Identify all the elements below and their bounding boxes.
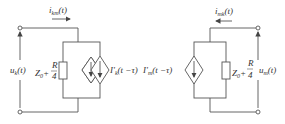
left-circuit: [18, 19, 100, 114]
terminal-bottom-right: [256, 110, 260, 114]
source-label-left: I'k(t −τ): [109, 65, 138, 76]
circuit-diagram: ikm(t) uk(t) Z0+ R 4 I'k(t −τ) imk(t) um…: [0, 0, 285, 124]
terminal-bottom-left: [18, 110, 22, 114]
voltage-label-right: um(t): [259, 65, 276, 76]
impedance-denominator-left: 4: [52, 71, 57, 81]
terminal-top-left: [18, 26, 22, 30]
resistor-left: [59, 62, 67, 79]
voltage-label-left: uk(t): [10, 65, 26, 76]
impedance-numerator-left: R: [51, 60, 58, 70]
impedance-label-left: Z0+: [35, 68, 49, 79]
source-label-right: I'm(t −τ): [142, 65, 172, 76]
current-label-right: imk(t): [215, 6, 233, 17]
impedance-denominator-right: 4: [248, 70, 253, 80]
terminal-top-right: [256, 26, 260, 30]
current-label-left: ikm(t): [49, 5, 67, 16]
impedance-numerator-right: R: [247, 58, 254, 68]
impedance-label-right: Z0+: [232, 68, 246, 79]
resistor-right: [222, 62, 230, 79]
